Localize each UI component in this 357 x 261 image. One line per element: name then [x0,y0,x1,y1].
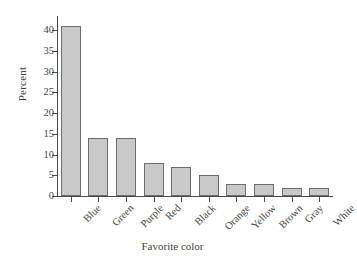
y-tick-label: 15 [44,129,55,140]
y-tick-label: 40 [44,25,55,36]
y-tick-label: 5 [49,170,54,181]
bar-brown [254,184,274,196]
x-tick-mark-gray [292,197,293,202]
y-axis-title: Percent [16,44,28,124]
x-tick-label-white: White [332,203,357,229]
y-tick-label: 30 [44,66,55,77]
x-tick-mark-yellow [236,197,237,202]
x-tick-label-gray: Gray [303,203,325,225]
x-tick-label-yellow: Yellow [250,203,279,232]
x-tick-mark-brown [264,197,265,202]
y-axis-line [57,16,58,197]
x-tick-label-green: Green [111,203,137,229]
bar-purple [116,138,136,196]
x-tick-mark-green [98,197,99,202]
bar-gray [282,188,302,196]
bar-white [309,188,329,196]
x-tick-label-purple: Purple [139,203,166,230]
x-tick-label-blue: Blue [82,203,103,224]
x-tick-label-brown: Brown [277,203,305,231]
bar-green [88,138,108,196]
bar-black [171,167,191,196]
y-tick-label: 10 [44,149,55,160]
y-tick-label: 35 [44,46,55,57]
x-tick-mark-blue [71,197,72,202]
plot-area: 0510152025303540 BlueGreenPurpleRedBlack… [57,16,333,197]
bar-blue [61,26,81,196]
bar-red [144,163,164,196]
y-tick-label: 20 [44,108,55,119]
y-tick-label: 0 [49,191,54,202]
bar-orange [199,175,219,196]
x-tick-label-black: Black [193,203,218,228]
x-tick-mark-white [319,197,320,202]
x-tick-label-orange: Orange [223,203,252,232]
y-tick-label: 25 [44,87,55,98]
bar-yellow [226,184,246,196]
x-tick-mark-red [154,197,155,202]
x-tick-mark-black [181,197,182,202]
x-tick-mark-purple [126,197,127,202]
x-tick-label-red: Red [164,203,183,222]
x-axis-title: Favorite color [0,240,345,252]
